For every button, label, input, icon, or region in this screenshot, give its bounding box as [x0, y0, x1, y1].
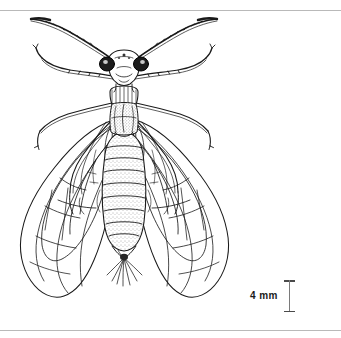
scale-bar-label: 4 mm — [250, 291, 284, 301]
left-compound-eye — [100, 57, 115, 71]
terminal-hairs — [107, 254, 142, 286]
left-forewing — [20, 120, 116, 297]
thorax — [110, 86, 138, 137]
right-forewing — [133, 120, 229, 297]
scale-bar-rule — [284, 280, 295, 312]
right-compound-eye — [134, 57, 149, 71]
scale-bar: 4 mm — [250, 276, 310, 316]
figure-plate: 4 mm — [0, 0, 341, 338]
abdomen — [102, 132, 146, 258]
scale-bar-stem — [289, 280, 291, 312]
bottom-divider — [0, 330, 341, 331]
